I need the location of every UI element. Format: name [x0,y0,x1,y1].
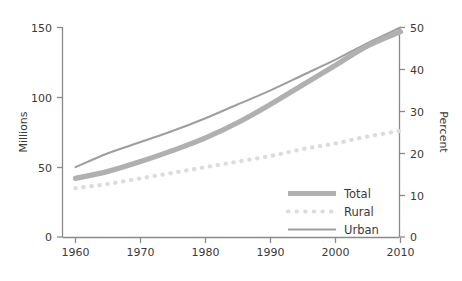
chart-background [0,0,462,281]
y2-tick-label: 30 [410,106,424,119]
legend-label-rural: Rural [344,205,374,219]
chart-container: 150 100 50 0 Millions 1960 1970 1980 199… [0,0,462,281]
y2-tick-label: 10 [410,190,424,203]
y-tick-label: 150 [31,22,52,35]
x-tick-label: 1980 [192,246,220,259]
y2-tick-label: 50 [410,22,424,35]
y2-tick-label: 40 [410,64,424,77]
y-tick-label: 50 [38,162,52,175]
y-tick-label: 100 [31,92,52,105]
x-tick-label: 2000 [322,246,350,259]
legend-label-urban: Urban [344,223,379,237]
line-chart: 150 100 50 0 Millions 1960 1970 1980 199… [0,0,462,281]
legend-label-total: Total [343,187,371,201]
x-tick-label: 2010 [387,246,415,259]
y2-axis-title: Percent [437,111,450,153]
y2-tick-label: 20 [410,148,424,161]
x-tick-label: 1970 [127,246,155,259]
x-tick-label: 1990 [257,246,285,259]
y-tick-label: 0 [45,231,52,244]
y2-tick-label: 0 [410,231,417,244]
x-tick-label: 1960 [62,246,90,259]
y-axis-title: Millions [17,111,30,152]
